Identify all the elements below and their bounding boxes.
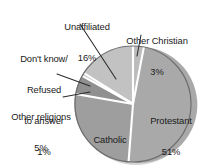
pie-label-other-christian-name: Other Christian	[112, 36, 202, 46]
pie-label-other-christian-value: 3%	[112, 67, 202, 77]
pie-label-protestant-value: 51%	[142, 147, 200, 157]
pie-chart-figure: Unaffiliated 16% Other Christian 3% Don'…	[0, 0, 204, 167]
pie-label-catholic-name: Catholic	[86, 135, 134, 145]
pie-label-other-religions-value: 5%	[1, 143, 81, 153]
pie-label-protestant-name: Protestant	[142, 116, 200, 126]
pie-label-other-religions: Other religions 5%	[1, 91, 81, 167]
pie-label-catholic: Catholic 24%	[86, 114, 134, 167]
pie-label-protestant: Protestant 51%	[142, 95, 200, 167]
pie-label-dont-know-line1: Don't know/	[6, 54, 82, 64]
pie-label-other-religions-name: Other religions	[1, 112, 81, 122]
pie-label-catholic-value: 24%	[86, 166, 134, 167]
pie-label-other-christian: Other Christian 3%	[112, 15, 202, 98]
